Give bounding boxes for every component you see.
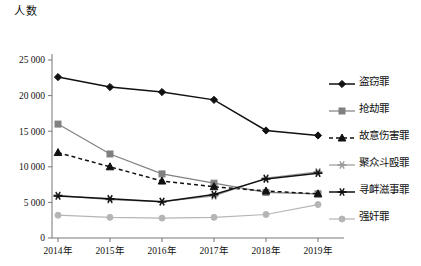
svg-text:20 000: 20 000 <box>19 91 45 101</box>
legend-key-star-icon <box>329 184 355 196</box>
svg-text:2015年: 2015年 <box>96 245 125 256</box>
legend-item[interactable]: 盗窃罪 <box>329 68 421 95</box>
legend-item[interactable]: 抢劫罪 <box>329 95 421 122</box>
legend-key-triangle-icon <box>329 130 355 142</box>
legend-label: 聚众斗殴罪 <box>359 157 409 169</box>
y-axis-tick-labels: 05 00010 00015 00020 00025 000 <box>19 55 45 243</box>
svg-text:10 000: 10 000 <box>19 162 45 172</box>
figure-caption <box>96 256 416 266</box>
line-chart: 人数 05 00010 00015 00020 00025 000 2014年2… <box>0 0 421 266</box>
svg-text:5 000: 5 000 <box>24 198 46 208</box>
svg-text:2017年: 2017年 <box>200 245 229 256</box>
legend-key-diamond-icon <box>329 76 355 88</box>
x-axis-tick-labels: 2014年2015年2016年2017年2018年2019年 <box>44 245 333 256</box>
legend-label: 强奸罪 <box>359 211 389 223</box>
chart-legend: 盗窃罪抢劫罪故意伤害罪聚众斗殴罪寻衅滋事罪强奸罪 <box>329 68 421 230</box>
legend-label: 寻衅滋事罪 <box>359 184 409 196</box>
svg-text:2018年: 2018年 <box>252 245 281 256</box>
svg-text:2016年: 2016年 <box>148 245 177 256</box>
legend-key-star-icon <box>329 157 355 169</box>
legend-item[interactable]: 故意伤害罪 <box>329 122 421 149</box>
svg-text:15 000: 15 000 <box>19 127 45 137</box>
svg-text:2019年: 2019年 <box>304 245 333 256</box>
legend-label: 盗窃罪 <box>359 76 389 88</box>
legend-key-circle-icon <box>329 211 355 223</box>
legend-label: 抢劫罪 <box>359 103 389 115</box>
legend-item[interactable]: 聚众斗殴罪 <box>329 149 421 176</box>
legend-item[interactable]: 强奸罪 <box>329 203 421 230</box>
legend-key-square-icon <box>329 103 355 115</box>
svg-text:2014年: 2014年 <box>44 245 73 256</box>
chart-series <box>54 73 323 221</box>
svg-text:25 000: 25 000 <box>19 55 45 65</box>
legend-item[interactable]: 寻衅滋事罪 <box>329 176 421 203</box>
chart-axes <box>48 54 344 242</box>
svg-text:0: 0 <box>40 233 45 243</box>
legend-label: 故意伤害罪 <box>359 130 409 142</box>
